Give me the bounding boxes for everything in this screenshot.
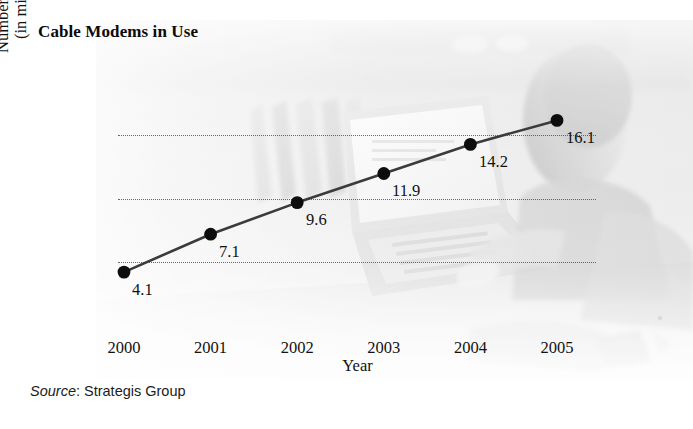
data-label-2002: 9.6 (306, 212, 327, 229)
y-axis-title: Number of users (in millions) (0, 0, 31, 108)
x-axis-title: Year (0, 356, 693, 376)
data-point-2005 (551, 114, 564, 127)
data-label-2003: 11.9 (392, 183, 420, 200)
xtick-2004: 2004 (435, 340, 505, 357)
series-line (124, 120, 557, 272)
data-point-2001 (204, 228, 217, 241)
source-label: Source (30, 383, 76, 399)
data-point-2004 (464, 138, 477, 151)
chart-title: Cable Modems in Use (38, 22, 198, 42)
data-point-2003 (377, 167, 390, 180)
xtick-2002: 2002 (262, 340, 332, 357)
data-series (118, 66, 596, 332)
data-label-2001: 7.1 (219, 244, 240, 261)
data-point-2002 (291, 196, 304, 209)
source-credit: Source: Strategis Group (30, 383, 186, 399)
source-value: Strategis Group (84, 383, 186, 399)
xtick-2001: 2001 (176, 340, 246, 357)
data-label-2000: 4.1 (132, 282, 153, 299)
plot-area: 20 15 10 5 0 4.1 7.1 9.6 11.9 14.2 16.1 … (118, 66, 596, 332)
data-label-2005: 16.1 (566, 130, 595, 147)
xtick-2003: 2003 (349, 340, 419, 357)
xtick-2005: 2005 (522, 340, 592, 357)
source-separator: : (76, 383, 84, 399)
data-label-2004: 14.2 (479, 154, 508, 171)
xtick-2000: 2000 (89, 340, 159, 357)
data-point-2000 (118, 266, 131, 279)
x-axis-title-text: Year (342, 356, 372, 375)
chart: Cable Modems in Use Number of users (in … (0, 0, 693, 429)
